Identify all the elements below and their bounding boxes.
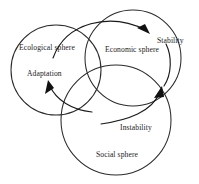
arrow-from-instability-curve [101,92,160,124]
stability-feedback-tail [164,44,170,86]
arrow-to-stability-head [137,24,150,34]
label-economic-sphere: Economic sphere [105,46,159,54]
label-adaptation: Adaptation [27,70,62,78]
label-instability: Instability [120,124,152,132]
sustainability-venn-diagram: Ecological sphere Adaptation Economic sp… [0,0,199,184]
arrow-to-adaptation-curve [50,86,92,112]
label-social-sphere: Social sphere [96,151,138,159]
label-ecological-sphere: Ecological sphere [19,44,75,52]
arrow-from-instability-head [154,86,164,98]
label-stability: Stability [157,37,184,45]
